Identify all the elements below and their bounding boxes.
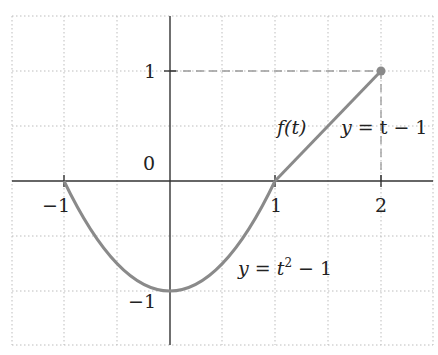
x-tick-label-neg1: −1 (42, 194, 70, 216)
line-equation-label: y = t − 1 (340, 116, 427, 138)
endpoint-marker (377, 67, 386, 76)
function-plot: −1 1 2 1 −1 0 f(t) y = t − 1 y = t2 − 1 (0, 0, 438, 355)
y-tick-label-neg1: −1 (128, 290, 156, 312)
origin-label: 0 (143, 152, 155, 174)
x-tick-label-1: 1 (270, 194, 282, 216)
x-tick-label-2: 2 (375, 194, 387, 216)
parabola-equation-label: y = t2 − 1 (237, 256, 332, 279)
f-of-t-label: f(t) (275, 116, 307, 138)
y-tick-label-1: 1 (144, 60, 156, 82)
